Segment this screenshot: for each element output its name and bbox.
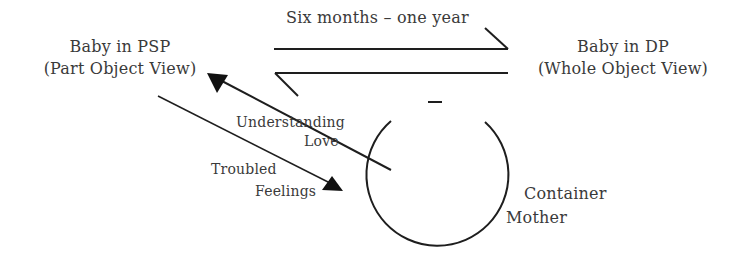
right-node-label: Baby in DP (Whole Object View) xyxy=(518,36,728,80)
troubled-line2: Feelings xyxy=(211,180,316,202)
left-node-title: Baby in PSP xyxy=(20,36,220,58)
understanding-label: Understanding Love xyxy=(236,113,345,151)
right-node-title: Baby in DP xyxy=(518,36,728,58)
bottom-harpoon-arrow xyxy=(275,73,508,96)
left-node-label: Baby in PSP (Part Object View) xyxy=(20,36,220,80)
container-line2: Mother xyxy=(506,206,607,230)
left-node-subtitle: (Part Object View) xyxy=(20,58,220,80)
top-harpoon-arrow xyxy=(274,28,508,49)
container-line1: Container xyxy=(506,182,607,206)
troubled-line1: Troubled xyxy=(211,158,316,180)
understanding-line2: Love xyxy=(236,132,345,151)
top-arrow-label: Six months – one year xyxy=(286,8,469,28)
container-circle xyxy=(366,121,508,246)
diagram-canvas: Baby in PSP (Part Object View) Baby in D… xyxy=(0,0,741,267)
troubled-label: Troubled Feelings xyxy=(211,158,316,202)
container-label: Container Mother xyxy=(506,182,607,230)
right-node-subtitle: (Whole Object View) xyxy=(518,58,728,80)
understanding-line1: Understanding xyxy=(236,113,345,132)
